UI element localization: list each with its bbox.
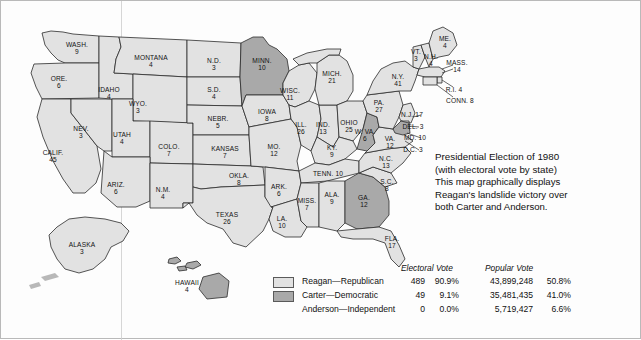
state-new-mexico [150, 163, 193, 208]
state-florida [337, 227, 405, 267]
legend-popular-pct: 50.8% [539, 276, 571, 286]
legend-header-row: Electoral Vote Popular Vote [273, 263, 633, 275]
legend-candidate-name: Reagan—Republican [302, 276, 384, 286]
caption-body-line2: Reagan's landslide victory over [435, 189, 635, 202]
legend-popular-vote: 5,719,427 [471, 304, 533, 314]
legend-swatch [273, 291, 294, 302]
map-legend: Electoral Vote Popular Vote Reagan—Repub… [273, 263, 633, 317]
state-colorado [150, 121, 193, 164]
state-south-dakota [187, 77, 242, 106]
state-washington [42, 31, 99, 63]
state-connecticut [423, 77, 437, 85]
legend-electoral-vote: 489 [399, 276, 425, 286]
state-massachusetts [417, 67, 445, 77]
state-montana [114, 37, 187, 77]
state-alaska [49, 217, 129, 273]
state-texas [183, 185, 273, 247]
state-hawaii [168, 257, 229, 299]
legend-row: Reagan—Republican48990.9%43,899,24850.8% [273, 275, 633, 289]
state-north-dakota [187, 40, 241, 77]
caption-body-line3: both Carter and Anderson. [435, 201, 635, 214]
figure-caption: Presidential Election of 1980 (with elec… [435, 151, 635, 214]
state-alabama [319, 181, 345, 231]
state-arizona [101, 151, 150, 207]
legend-popular-pct: 41.0% [539, 290, 571, 300]
legend-row: Carter—Democratic499.1%35,481,43541.0% [273, 289, 633, 303]
election-map: WASH.9ORE.6IDAHO4MONTANA4CALIF.45NEV.3UT… [1, 1, 411, 281]
state-rhode-island [437, 77, 442, 83]
state-oregon [31, 63, 99, 99]
caption-title-line1: Presidential Election of 1980 [435, 151, 635, 164]
legend-popular-vote: 35,481,435 [471, 290, 533, 300]
state-kansas [193, 135, 251, 166]
state-wyoming [133, 74, 187, 123]
legend-popular-pct: 6.6% [539, 304, 571, 314]
legend-electoral-pct: 90.9% [429, 276, 459, 286]
popular-vote-header: Popular Vote [485, 263, 533, 273]
legend-electoral-vote: 0 [399, 304, 425, 314]
caption-body-line1: This map graphically displays [435, 176, 635, 189]
legend-row: Anderson—Independent00.0%5,719,4276.6% [273, 303, 633, 317]
state-missouri [249, 119, 301, 171]
state-new-york [367, 61, 419, 95]
legend-popular-vote: 43,899,248 [471, 276, 533, 286]
state-michigan [315, 55, 353, 105]
legend-rows: Reagan—Republican48990.9%43,899,24850.8%… [273, 275, 633, 317]
state-maine [429, 27, 457, 59]
state-nebraska [187, 105, 249, 135]
legend-electoral-vote: 49 [399, 290, 425, 300]
legend-swatch [273, 277, 294, 288]
legend-candidate-name: Anderson—Independent [302, 304, 390, 314]
legend-candidate-name: Carter—Democratic [302, 290, 378, 300]
caption-title-line2: (with electoral vote by state) [435, 164, 635, 177]
electoral-vote-header: Electoral Vote [401, 263, 453, 273]
alaska-aleutians [29, 273, 59, 289]
legend-electoral-pct: 0.0% [429, 304, 459, 314]
legend-electoral-pct: 9.1% [429, 290, 459, 300]
